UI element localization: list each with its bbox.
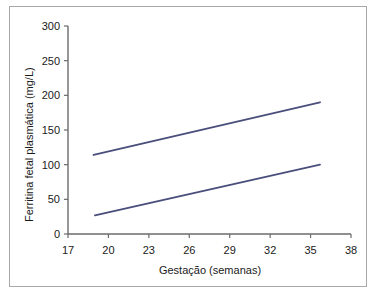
y-tick-label: 250	[26, 55, 60, 66]
x-axis-title: Gestação (semanas)	[159, 265, 261, 276]
data-series	[94, 102, 320, 215]
x-tick-label: 35	[304, 245, 316, 256]
y-axis-title: Ferritina fetal plasmática (mg/L)	[24, 67, 35, 222]
y-tick-label: 300	[26, 21, 60, 32]
x-tick-label: 23	[143, 245, 155, 256]
y-tick-label: 0	[26, 229, 60, 240]
series-line-lower	[95, 165, 320, 216]
x-tick-label: 29	[224, 245, 236, 256]
x-tick-label: 26	[183, 245, 195, 256]
x-tick-label: 32	[264, 245, 276, 256]
x-tick-label: 17	[62, 245, 74, 256]
x-tick-label: 38	[345, 245, 357, 256]
series-line-upper	[94, 102, 320, 155]
axes	[64, 26, 351, 238]
x-tick-label: 20	[102, 245, 114, 256]
chart-figure: 0501001502002503001720232629323538 Ferri…	[0, 0, 378, 294]
